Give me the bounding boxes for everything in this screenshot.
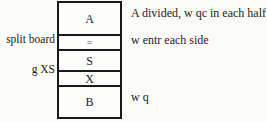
annotation-w-q: w q xyxy=(131,90,149,104)
stack-cell-equals-label: = xyxy=(87,38,93,48)
stack-cell-a: A xyxy=(59,3,120,34)
diagram-canvas: A = S X B split board g XS A divided, w … xyxy=(0,0,267,122)
stack-cell-equals: = xyxy=(59,36,120,49)
stack-cell-x-label: X xyxy=(85,73,94,85)
label-g-xs: g XS xyxy=(0,63,55,76)
label-split-board: split board xyxy=(0,33,55,46)
annotation-entr-each-side: w entr each side xyxy=(131,33,209,47)
stack-cell-b: B xyxy=(59,87,120,117)
stack-cell-b-label: B xyxy=(85,96,93,108)
stack-cell-a-label: A xyxy=(85,13,94,25)
annotation-a-divided: A divided, w qc in each half xyxy=(131,6,266,20)
stack-cell-s: S xyxy=(59,51,120,70)
stack-cell-x: X xyxy=(59,72,120,85)
stack-cell-s-label: S xyxy=(86,55,93,67)
board-stack: A = S X B xyxy=(57,1,122,119)
